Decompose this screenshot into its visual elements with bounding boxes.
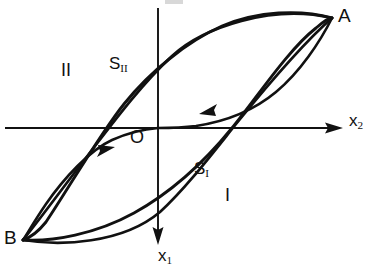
curve-label-S-II-base: S bbox=[109, 54, 120, 73]
region-label-one: I bbox=[225, 186, 230, 204]
origin-label-O: O bbox=[130, 128, 144, 146]
axis-label-x1: x1 bbox=[158, 247, 172, 266]
axis-label-x1-base: x bbox=[158, 246, 167, 265]
upper-flow-arrow bbox=[199, 104, 217, 116]
point-label-A: A bbox=[338, 6, 351, 25]
axis-label-x2-subscript: 2 bbox=[358, 119, 364, 131]
point-label-B: B bbox=[4, 228, 17, 247]
curve-label-S-I-subscript: I bbox=[205, 167, 209, 179]
lower-flow-arrow bbox=[97, 145, 115, 157]
curve-label-S-II-subscript: II bbox=[120, 62, 127, 74]
curve-label-S-I: SI bbox=[194, 160, 209, 179]
phase-portrait-figure bbox=[0, 0, 373, 274]
axis-label-x2: x2 bbox=[349, 112, 363, 131]
axis-label-x2-base: x bbox=[349, 111, 358, 130]
axis-label-x1-subscript: 1 bbox=[167, 254, 173, 266]
curve-label-S-II: SII bbox=[109, 55, 128, 74]
region-label-two: II bbox=[61, 61, 71, 79]
curve-label-S-I-base: S bbox=[194, 159, 205, 178]
